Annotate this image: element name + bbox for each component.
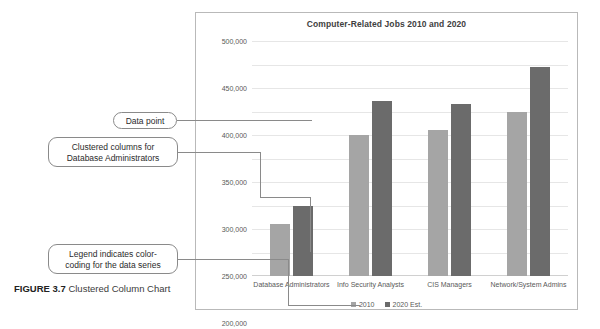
figure-page: Computer-Related Jobs 2010 and 2020 50,0… — [0, 0, 600, 329]
leader-line-clustered-h1 — [178, 152, 260, 153]
legend-swatch — [385, 302, 390, 307]
bar-2020-est-[interactable] — [372, 101, 392, 276]
figure-caption-text: Clustered Column Chart — [68, 283, 170, 294]
bar-2020-est-[interactable] — [451, 104, 471, 276]
category-label: Database Administrators — [252, 280, 331, 289]
callout-data-point: Data point — [113, 112, 177, 129]
legend-label: 2010 — [359, 301, 375, 308]
plot-area: 50,000100,000150,000200,000250,000300,00… — [252, 41, 568, 276]
bar-group — [489, 41, 568, 276]
chart-legend: 20102020 Est. — [196, 301, 577, 308]
bar-2010[interactable] — [349, 135, 369, 276]
bar-2010[interactable] — [507, 112, 527, 277]
category-label: CIS Managers — [410, 280, 489, 289]
leader-line-legend-h2 — [288, 305, 360, 306]
figure-caption: FIGURE 3.7 Clustered Column Chart — [14, 282, 189, 295]
bar-2020-est-[interactable] — [530, 67, 550, 276]
bar-groups — [252, 41, 568, 276]
leader-line-clustered-h2 — [260, 197, 310, 198]
category-label: Info Security Analysts — [331, 280, 410, 289]
leader-line-legend-v1 — [288, 259, 289, 305]
chart-frame: Computer-Related Jobs 2010 and 2020 50,0… — [195, 12, 578, 310]
callout-clustered-columns: Clustered columns for Database Administr… — [48, 137, 178, 167]
legend-label: 2020 Est. — [393, 301, 423, 308]
leader-line-legend-h1 — [178, 259, 288, 260]
y-axis-tick-label: 350,000 — [222, 179, 247, 186]
leader-line-data-point — [177, 120, 312, 121]
bar-group — [331, 41, 410, 276]
bar-group — [410, 41, 489, 276]
bar-group — [252, 41, 331, 276]
legend-item[interactable]: 2020 Est. — [385, 301, 423, 308]
callout-legend-note: Legend indicates color-coding for the da… — [48, 244, 178, 274]
y-axis-tick-label: 500,000 — [222, 38, 247, 45]
bar-2010[interactable] — [270, 224, 290, 276]
leader-line-clustered-v1 — [260, 152, 261, 197]
y-axis-tick-label: 400,000 — [222, 132, 247, 139]
chart-title: Computer-Related Jobs 2010 and 2020 — [196, 19, 577, 29]
y-axis-tick-label: 300,000 — [222, 226, 247, 233]
y-axis-tick-label: 200,000 — [222, 320, 247, 327]
bar-2010[interactable] — [428, 130, 448, 276]
category-labels: Database AdministratorsInfo Security Ana… — [252, 280, 568, 289]
leader-line-clustered-v2 — [310, 197, 311, 252]
figure-caption-label: FIGURE 3.7 — [14, 283, 66, 294]
y-axis-tick-label: 450,000 — [222, 85, 247, 92]
category-label: Network/System Admins — [489, 280, 568, 289]
y-axis-tick-label: 250,000 — [222, 273, 247, 280]
